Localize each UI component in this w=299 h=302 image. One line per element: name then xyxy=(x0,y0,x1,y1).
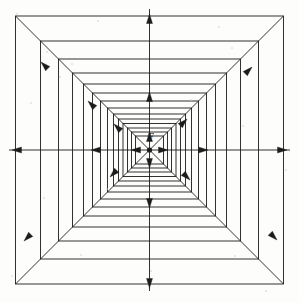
arrowhead-left-0 xyxy=(12,147,22,153)
paper-speck-9 xyxy=(190,99,191,100)
arrowhead-down-left-18 xyxy=(110,168,119,177)
paper-speck-6 xyxy=(218,26,220,28)
paper-speck-11 xyxy=(234,255,236,257)
nested-square-perspective-diagram: F xyxy=(0,0,299,302)
paper-speck-4 xyxy=(30,102,32,104)
paper-speck-8 xyxy=(97,20,98,21)
paper-speck-3 xyxy=(46,51,48,53)
paper-speck-13 xyxy=(11,275,13,277)
center-marker-group: F xyxy=(146,131,154,153)
diagonal-ray-down-left xyxy=(16,150,150,284)
arrowhead-up-left-12 xyxy=(41,62,50,71)
paper-speck-2 xyxy=(59,76,61,78)
paper-speck-1 xyxy=(71,63,73,65)
diagonal-ray-up-right xyxy=(150,16,284,150)
paper-speck-5 xyxy=(231,47,233,49)
center-point-label: F xyxy=(146,131,154,142)
figure-root: F xyxy=(0,0,299,302)
paper-speck-12 xyxy=(150,270,151,271)
paper-speck-17 xyxy=(285,169,286,170)
diagonal-ray-up-left xyxy=(16,16,150,150)
arrowhead-down-9 xyxy=(147,279,153,289)
arrowhead-down-left-17 xyxy=(24,232,33,241)
paper-speck-14 xyxy=(265,290,267,292)
arrowhead-down-11 xyxy=(147,159,153,169)
paper-speck-15 xyxy=(106,188,107,189)
paper-speck-16 xyxy=(43,197,44,198)
arrowhead-right-3 xyxy=(278,147,288,153)
center-point-dot xyxy=(147,147,152,152)
diagonal-ray-down-right xyxy=(150,150,284,284)
arrowhead-up-right-15 xyxy=(243,67,252,76)
paper-speck-10 xyxy=(80,254,82,256)
arrowhead-up-6 xyxy=(147,14,153,24)
arrowhead-down-right-19 xyxy=(268,231,277,240)
paper-speck-7 xyxy=(242,125,244,127)
